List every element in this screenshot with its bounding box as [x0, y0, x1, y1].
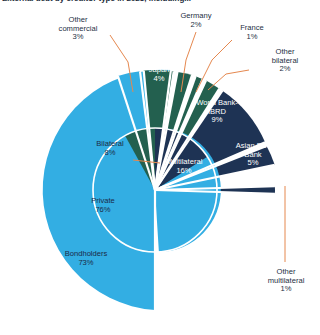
callout-france: France 1% — [226, 24, 278, 41]
label-bondholders-value: 73% — [50, 259, 122, 268]
label-world-bank-value: 9% — [186, 116, 248, 125]
label-private: Private 76% — [78, 197, 128, 214]
callout-germany-value: 2% — [166, 21, 226, 30]
callout-other-commercial: Other commercial 3% — [40, 16, 116, 42]
label-japan-value: 4% — [137, 75, 181, 84]
callout-other-bilateral: Other bilateral 2% — [254, 48, 316, 74]
label-asian-dev-bank: Asian Dev Bank 5% — [224, 142, 282, 168]
label-bilateral: Bilateral 8% — [84, 140, 136, 157]
label-bondholders: Bondholders 73% — [50, 250, 122, 267]
callout-other-commercial-value: 3% — [40, 33, 116, 42]
chart-container: External debt by creditor type in 2023, … — [0, 0, 320, 335]
label-multilateral: Multilateral 16% — [152, 158, 216, 175]
label-multilateral-value: 16% — [152, 167, 216, 176]
callout-other-multilateral: Other multilateral 1% — [252, 268, 320, 294]
label-japan: Japan 4% — [137, 66, 181, 83]
label-private-value: 76% — [78, 206, 128, 215]
callout-other-bilateral-value: 2% — [254, 65, 316, 74]
label-bilateral-value: 8% — [84, 149, 136, 158]
label-world-bank-ibrd: World Bank- IBRD 9% — [186, 99, 248, 125]
label-asian-dev-value: 5% — [224, 159, 282, 168]
callout-germany: Germany 2% — [166, 12, 226, 29]
callout-other-multilateral-value: 1% — [252, 285, 320, 294]
callout-france-value: 1% — [226, 33, 278, 42]
